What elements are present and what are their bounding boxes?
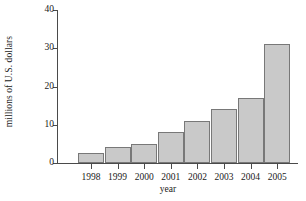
y-tick-label: 30 [45, 41, 55, 54]
bar-2004 [238, 98, 264, 163]
y-tick: 0 [57, 163, 58, 164]
y-tick-label: 20 [45, 80, 55, 93]
bar-2001 [158, 132, 184, 163]
x-axis-line [57, 163, 298, 164]
x-tick-mark [171, 164, 172, 169]
y-axis-title: millions of U.S. dollars [2, 0, 16, 163]
x-tick-label-2005: 2005 [257, 171, 297, 183]
bar-2005 [264, 44, 290, 163]
bar-2000 [131, 144, 157, 164]
y-tick-label: 40 [45, 3, 55, 16]
bar-2003 [211, 109, 237, 163]
y-tick-label: 10 [45, 118, 55, 131]
x-tick-mark [197, 164, 198, 169]
bar-2002 [184, 121, 210, 163]
bar-1998 [78, 153, 104, 163]
x-axis-title: year [78, 183, 258, 195]
bar-chart: millions of U.S. dollars 010203040 19981… [0, 0, 306, 201]
x-tick-mark [277, 164, 278, 169]
y-tick-label: 0 [49, 156, 54, 169]
x-tick-mark [144, 164, 145, 169]
bars-group [57, 10, 298, 163]
x-tick-mark [251, 164, 252, 169]
plot-area: 010203040 199819992000200120022003200420… [57, 10, 298, 163]
x-tick-mark [91, 164, 92, 169]
x-tick-mark [118, 164, 119, 169]
x-tick-mark [224, 164, 225, 169]
bar-1999 [105, 147, 131, 163]
